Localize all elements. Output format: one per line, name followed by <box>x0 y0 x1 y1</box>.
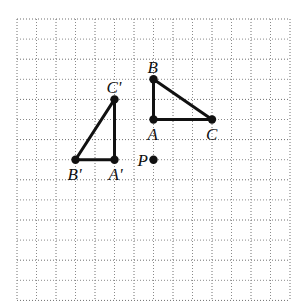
label-C1: C' <box>107 78 122 97</box>
label-B1: B' <box>68 165 82 184</box>
label-A: A <box>147 125 159 144</box>
label-C: C <box>206 125 218 144</box>
point-A <box>149 115 157 123</box>
point-P <box>149 156 157 164</box>
label-A1: A' <box>108 165 123 184</box>
triangle-A'B'C'-side <box>76 99 115 159</box>
point-A1 <box>110 156 118 164</box>
point-B1 <box>71 156 79 164</box>
label-P: P <box>137 151 148 170</box>
point-C <box>208 115 216 123</box>
label-B: B <box>148 58 159 77</box>
rotation-grid-diagram: ABCPA'B'C' <box>0 0 296 305</box>
